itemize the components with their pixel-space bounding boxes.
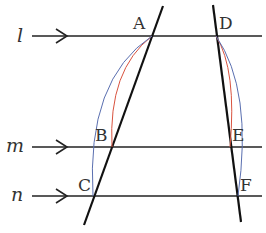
point-a-label: A <box>133 15 145 32</box>
diagram-canvas <box>0 0 266 233</box>
point-e-label: E <box>232 127 244 144</box>
point-b-label: B <box>95 127 108 144</box>
label-l: l <box>17 26 23 45</box>
point-f-label: F <box>240 177 252 194</box>
label-n: n <box>11 185 23 204</box>
point-d-label: D <box>219 15 233 32</box>
point-c-label: C <box>78 177 91 194</box>
parallel-lines-diagram: l m n A D B E C F <box>0 0 266 233</box>
transversal-left <box>84 6 163 225</box>
label-m: m <box>6 136 24 155</box>
